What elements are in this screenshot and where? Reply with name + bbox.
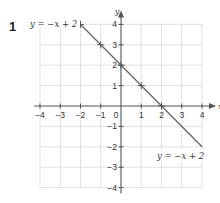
x-axis-arrow-icon (209, 103, 216, 109)
y-tick-label: 3 (112, 40, 117, 50)
x-tick-label: 2 (159, 110, 164, 120)
y-axis-label: y (114, 7, 120, 16)
x-tick-label: 3 (179, 110, 184, 120)
tick-labels: −4−3−2−1012344321−1−2−3−4xy (35, 7, 220, 192)
x-tick-label: −4 (35, 110, 45, 120)
x-tick-label: 4 (200, 110, 205, 120)
line-graph: −4−3−2−1012344321−1−2−3−4xy y = −x + 2y … (0, 0, 220, 203)
x-tick-label: −2 (76, 110, 86, 120)
equation-label-bottom: y = −x + 2 (156, 151, 204, 161)
x-tick-label: −1 (96, 110, 106, 120)
y-tick-label: −3 (107, 162, 117, 172)
y-tick-label: −2 (107, 142, 117, 152)
axes (34, 10, 216, 193)
y-tick-label: 4 (112, 19, 117, 29)
x-tick-label: 1 (139, 110, 144, 120)
x-axis-label: x (218, 102, 220, 111)
equation-label-top: y = −x + 2 (29, 19, 77, 29)
x-tick-label: 0 (114, 110, 119, 120)
y-tick-label: 2 (112, 60, 117, 70)
plotted-line (74, 18, 202, 147)
y-tick-label: −4 (107, 183, 117, 193)
y-tick-label: 1 (112, 81, 117, 91)
line-y-eq-neg-x-plus-2 (74, 18, 202, 147)
x-tick-label: −3 (55, 110, 65, 120)
y-tick-label: −1 (107, 121, 117, 131)
